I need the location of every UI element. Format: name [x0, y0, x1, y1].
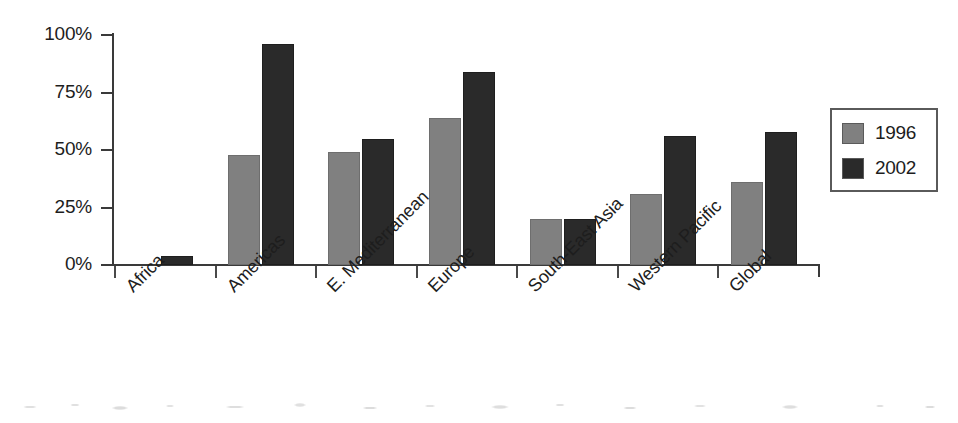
bar-chart: 0%25%50%75%100% AfricaAmericasE. Mediter… — [0, 0, 958, 423]
bar-group — [717, 35, 818, 265]
bar-1996-europe — [429, 118, 461, 265]
y-axis-tick-label: 50% — [0, 138, 92, 160]
bar-group — [215, 35, 316, 265]
bar-2002-europe — [463, 72, 495, 265]
x-axis-tick — [617, 266, 619, 278]
legend-label-1996: 1996 — [875, 122, 916, 144]
y-axis-tick-label: 75% — [0, 81, 92, 103]
bar-group — [114, 35, 215, 265]
bar-2002-americas — [262, 44, 294, 265]
x-axis-tick — [516, 266, 518, 278]
bar-group — [416, 35, 517, 265]
x-axis-tick — [114, 266, 116, 278]
series-2002-swatch — [842, 158, 864, 179]
plot-area — [114, 35, 818, 265]
legend-item-2002[interactable]: 2002 — [842, 155, 916, 181]
legend-label-2002: 2002 — [875, 157, 916, 179]
bar-2002-global — [765, 132, 797, 265]
y-axis-tick-label: 100% — [0, 23, 92, 45]
chart-legend: 1996 2002 — [830, 108, 938, 192]
series-1996-swatch — [842, 123, 864, 144]
y-axis-tick-label: 0% — [0, 253, 92, 275]
legend-item-1996[interactable]: 1996 — [842, 120, 916, 146]
x-axis-tick — [416, 266, 418, 278]
y-axis-tick-label: 25% — [0, 196, 92, 218]
scan-noise-artifact — [0, 398, 958, 416]
x-axis-end-tick — [818, 264, 820, 277]
x-axis-tick — [215, 266, 217, 278]
x-axis-tick — [717, 266, 719, 278]
x-axis-tick — [315, 266, 317, 278]
